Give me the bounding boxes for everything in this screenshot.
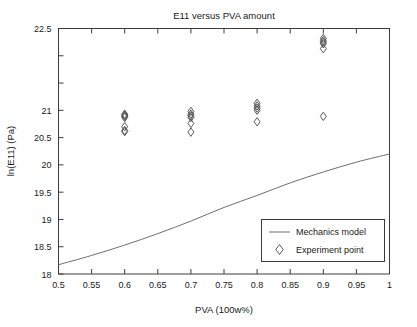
- experiment-point-marker: [188, 128, 194, 136]
- x-tick-label: 0.75: [215, 280, 233, 290]
- chart-legend: Mechanics model Experiment point: [262, 220, 385, 262]
- x-tick-label: 0.65: [149, 280, 167, 290]
- y-tick-label: 22.5: [34, 24, 52, 34]
- experiment-point-marker: [254, 118, 260, 126]
- x-tick-label: 1: [387, 280, 392, 290]
- x-tick-label: 0.55: [83, 280, 101, 290]
- x-tick-label: 0.85: [281, 280, 299, 290]
- legend-box: [262, 220, 385, 262]
- experiment-point-marker: [320, 112, 326, 120]
- y-tick-label: 21: [41, 106, 51, 116]
- y-axis-ticks: 1818.51919.52020.52122.5: [34, 24, 64, 280]
- chart-canvas: E11 versus PVA amount ln(E11) (Pa) PVA (…: [0, 0, 417, 327]
- y-tick-label: 18.5: [34, 242, 52, 252]
- x-tick-label: 0.95: [348, 280, 366, 290]
- x-tick-label: 0.7: [185, 280, 198, 290]
- x-tick-label: 0.5: [52, 280, 65, 290]
- chart-title: E11 versus PVA amount: [173, 10, 275, 21]
- experiment-point-markers: [122, 34, 327, 136]
- x-tick-label: 0.8: [251, 280, 264, 290]
- x-tick-label: 0.9: [317, 280, 330, 290]
- y-tick-label: 20: [41, 160, 51, 170]
- legend-label-experiment-point: Experiment point: [296, 245, 364, 255]
- x-axis-label: PVA (100w%): [195, 304, 253, 315]
- x-tick-label: 0.6: [118, 280, 131, 290]
- legend-label-mechanics-model: Mechanics model: [296, 227, 366, 237]
- y-tick-label: 20.5: [34, 133, 52, 143]
- y-tick-label: 18: [41, 270, 51, 280]
- y-tick-label: 19.5: [34, 188, 52, 198]
- y-axis-label: ln(E11) (Pa): [5, 126, 16, 177]
- chart-figure: E11 versus PVA amount ln(E11) (Pa) PVA (…: [0, 0, 417, 327]
- y-tick-label: 19: [41, 215, 51, 225]
